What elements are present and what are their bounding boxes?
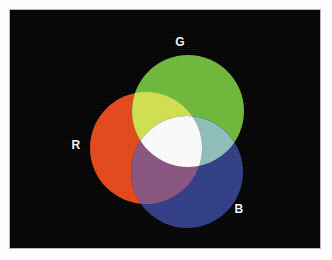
venn-diagram-svg: [10, 10, 320, 248]
label-green: G: [172, 36, 188, 48]
figure-canvas: G R B: [0, 0, 332, 260]
label-red: R: [68, 139, 84, 151]
diagram-panel: G R B: [10, 10, 320, 248]
label-blue: B: [231, 203, 247, 215]
